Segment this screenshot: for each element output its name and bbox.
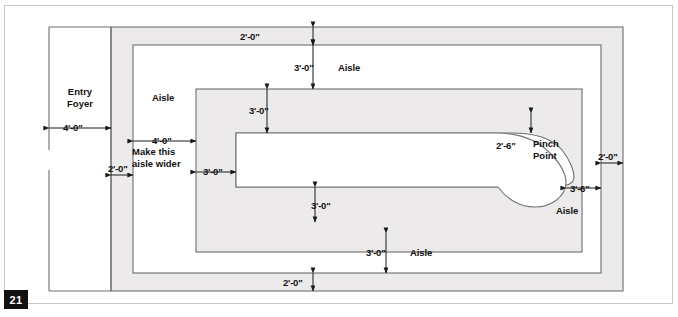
dim-label-lower-aisle: 3'-0" [366, 247, 386, 258]
aisle-label-right: Aisle [556, 205, 578, 216]
dim-label-pinch-point-clearance: 2'-6" [496, 140, 516, 151]
figure-number-badge: 21 [4, 290, 28, 309]
dim-label-outer-top: 2'-0" [240, 31, 260, 42]
dim-label-bulb-right: 3'-6" [570, 183, 590, 194]
aisle-label-bottom: Aisle [410, 247, 432, 258]
room-label-aisle-note: Make this aisle wider [132, 146, 198, 170]
floor-plan-figure: Entry Foyer 4'-0" 2'-0" 3'-0" Aisle Aisl… [0, 0, 678, 317]
room-label-pinch-point: Pinch Point [533, 138, 581, 162]
room-label-entry-foyer: Entry Foyer [52, 86, 108, 110]
dim-label-outer-bottom: 2'-0" [283, 277, 303, 288]
dim-label-entry-foyer-width: 4'-0" [63, 122, 83, 133]
dim-label-right-outer: 2'-0" [598, 151, 618, 162]
dim-label-inner-top: 3'-0" [249, 105, 269, 116]
dim-label-left-outer: 2'-0" [108, 163, 128, 174]
dim-label-upper-aisle: 3'-0" [294, 62, 314, 73]
dim-label-left-aisle: 4'-0" [152, 135, 172, 146]
entry-foyer-walls [49, 27, 111, 291]
dim-label-left-inner: 3'-0" [203, 166, 223, 177]
aisle-label-top: Aisle [338, 62, 360, 73]
dim-label-lower-inner: 3'-0" [311, 200, 331, 211]
room-label-aisle-upper-left: Aisle [152, 92, 174, 103]
